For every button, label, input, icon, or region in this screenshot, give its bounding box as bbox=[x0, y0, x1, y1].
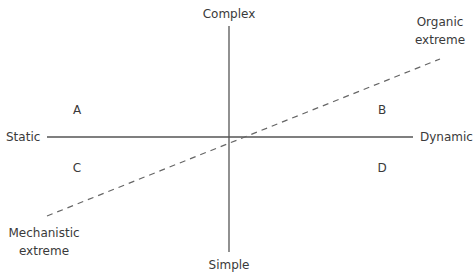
organic-extreme-line-2: extreme bbox=[415, 31, 465, 49]
axis-label-simple: Simple bbox=[209, 258, 250, 272]
axis-label-static: Static bbox=[6, 130, 40, 144]
quadrant-label-d: D bbox=[377, 161, 386, 175]
organic-extreme-label: Organic extreme bbox=[415, 13, 465, 49]
organic-extreme-line-1: Organic bbox=[415, 13, 465, 31]
quadrant-label-c: C bbox=[73, 161, 81, 175]
mechanistic-extreme-label: Mechanistic extreme bbox=[8, 224, 79, 260]
quadrant-label-a: A bbox=[73, 103, 81, 117]
quadrant-label-b: B bbox=[378, 103, 386, 117]
axis-label-dynamic: Dynamic bbox=[420, 130, 473, 144]
axis-label-complex: Complex bbox=[203, 7, 256, 21]
mechanistic-extreme-line-2: extreme bbox=[8, 242, 79, 260]
mechanistic-extreme-line-1: Mechanistic bbox=[8, 224, 79, 242]
